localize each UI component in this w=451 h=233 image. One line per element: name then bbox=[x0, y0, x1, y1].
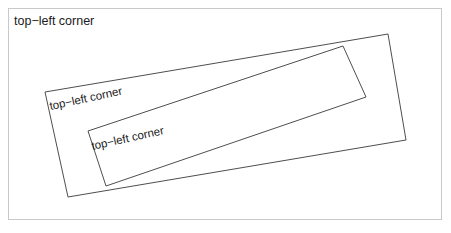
rotated-rectangle-inner bbox=[88, 46, 366, 186]
vector-figure bbox=[0, 0, 451, 233]
figure-canvas: top−left corner top−left corner top−left… bbox=[0, 0, 451, 233]
corner-label-horizontal: top−left corner bbox=[14, 15, 94, 28]
rotated-rectangle-outer bbox=[45, 34, 406, 197]
